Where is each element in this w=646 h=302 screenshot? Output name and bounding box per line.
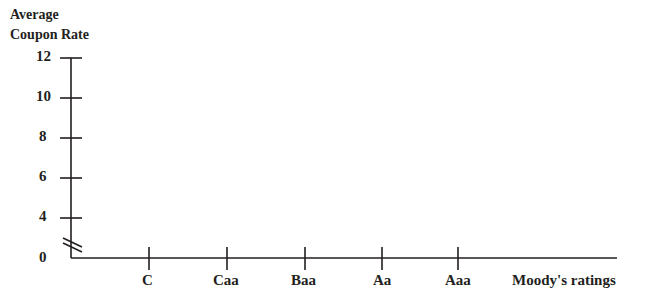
y-tick-6: 6 (39, 168, 47, 185)
x-tick-aa: Aa (373, 272, 391, 289)
axis-break-mark-1 (63, 238, 82, 247)
y-tick-4: 4 (39, 208, 47, 225)
y-tick-0: 0 (39, 249, 47, 266)
y-tick-8: 8 (39, 128, 47, 145)
y-tick-10: 10 (36, 88, 51, 105)
x-tick-c: C (142, 272, 153, 289)
x-tick-baa: Baa (291, 272, 316, 289)
x-axis-title: Moody's ratings (512, 272, 616, 289)
x-tick-aaa: Aaa (445, 272, 471, 289)
axis-break-mark-2 (63, 243, 82, 252)
x-tick-caa: Caa (213, 272, 239, 289)
y-tick-12: 12 (36, 48, 51, 65)
chart-axes (0, 0, 646, 302)
